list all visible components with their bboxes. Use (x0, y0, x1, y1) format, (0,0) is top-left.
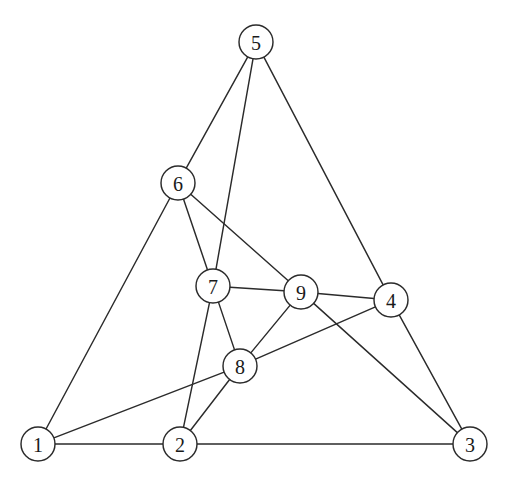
node-label-3: 3 (465, 434, 475, 456)
graph-node-4[interactable]: 4 (374, 283, 408, 317)
graph-node-6[interactable]: 6 (161, 166, 195, 200)
graph-edge-2-8 (190, 379, 229, 430)
node-label-7: 7 (208, 276, 218, 298)
graph-edge-7-8 (218, 302, 234, 350)
graph-edge-6-7 (183, 199, 207, 270)
graph-node-5[interactable]: 5 (239, 25, 273, 59)
graph-edge-6-9 (191, 194, 289, 280)
graph-node-2[interactable]: 2 (163, 427, 197, 461)
edge-layer (46, 57, 462, 444)
graph-edge-1-8 (54, 372, 224, 438)
graph-edge-5-7 (216, 59, 253, 270)
graph-node-7[interactable]: 7 (196, 269, 230, 303)
graph-canvas: 123456789 (0, 0, 511, 486)
node-label-9: 9 (296, 282, 306, 304)
graph-node-8[interactable]: 8 (223, 349, 257, 383)
graph-edge-7-9 (230, 287, 284, 291)
graph-edge-3-9 (314, 303, 458, 432)
node-label-6: 6 (173, 173, 183, 195)
node-label-5: 5 (251, 32, 261, 54)
graph-edge-3-4 (399, 315, 462, 429)
graph-edge-2-7 (183, 303, 209, 428)
node-label-8: 8 (235, 356, 245, 378)
graph-node-1[interactable]: 1 (21, 427, 55, 461)
graph-edge-1-6 (46, 198, 170, 429)
graph-edge-4-5 (264, 57, 383, 285)
node-label-4: 4 (386, 290, 396, 312)
graph-edge-8-9 (251, 305, 290, 353)
graph-edge-5-6 (186, 57, 248, 168)
graph-edge-4-8 (256, 307, 376, 359)
graph-node-9[interactable]: 9 (284, 275, 318, 309)
node-label-1: 1 (33, 434, 43, 456)
node-label-2: 2 (175, 434, 185, 456)
graph-figure: 123456789 (0, 0, 511, 486)
graph-edge-4-9 (318, 294, 374, 299)
graph-node-3[interactable]: 3 (453, 427, 487, 461)
